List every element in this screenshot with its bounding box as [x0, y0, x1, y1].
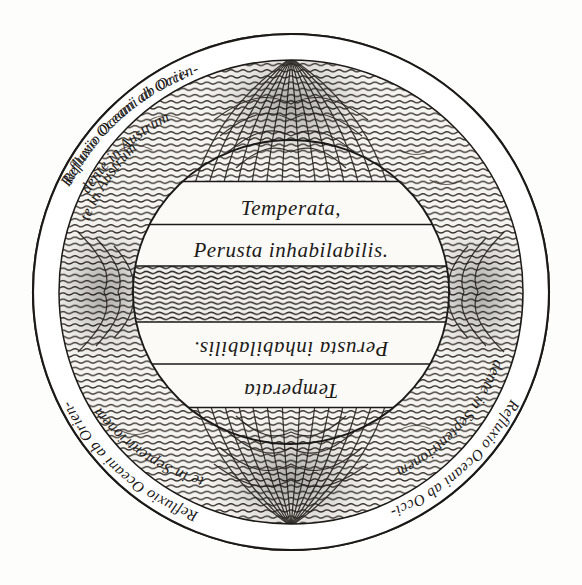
band-equatorial-sea — [120, 266, 462, 322]
zone-label-south-temperate: Temperata — [244, 379, 338, 403]
zone-label-south-torrid: Perusta inhabilabilis. — [193, 337, 389, 361]
engraving-plate: Refluxio Oceani ab Orien- te in Austrum … — [0, 0, 582, 585]
zone-label-north-torrid: Perusta inhabilabilis. — [192, 238, 388, 262]
zone-label-north-temperate: Temperata, — [241, 196, 341, 220]
globe-diagram: Refluxio Oceani ab Orien- te in Austrum … — [0, 0, 582, 585]
